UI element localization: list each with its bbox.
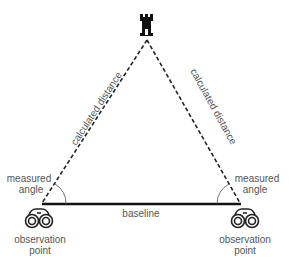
right-angle-arc (217, 184, 229, 204)
binoculars-icon (232, 209, 259, 228)
triangulation-diagram: calculated distance calculated distance … (0, 0, 289, 261)
right-observation-label-2: point (234, 245, 256, 256)
right-side-label: calculated distance (188, 67, 239, 147)
left-angle-arc (55, 184, 66, 204)
right-angle-label-1: measured (235, 173, 279, 184)
left-observation-label-1: observation (14, 234, 66, 245)
left-angle-label-1: measured (7, 173, 51, 184)
binoculars-icon (26, 209, 53, 228)
right-observation-label-1: observation (219, 234, 271, 245)
baseline-label: baseline (122, 208, 160, 219)
left-side-label: calculated distance (68, 69, 124, 147)
left-calculated-distance-line (42, 40, 147, 203)
right-angle-label-2: angle (243, 184, 268, 195)
diagram-svg: calculated distance calculated distance … (0, 0, 289, 261)
left-angle-label-2: angle (19, 184, 44, 195)
castle-tower-icon (140, 14, 153, 36)
left-observation-label-2: point (29, 245, 51, 256)
